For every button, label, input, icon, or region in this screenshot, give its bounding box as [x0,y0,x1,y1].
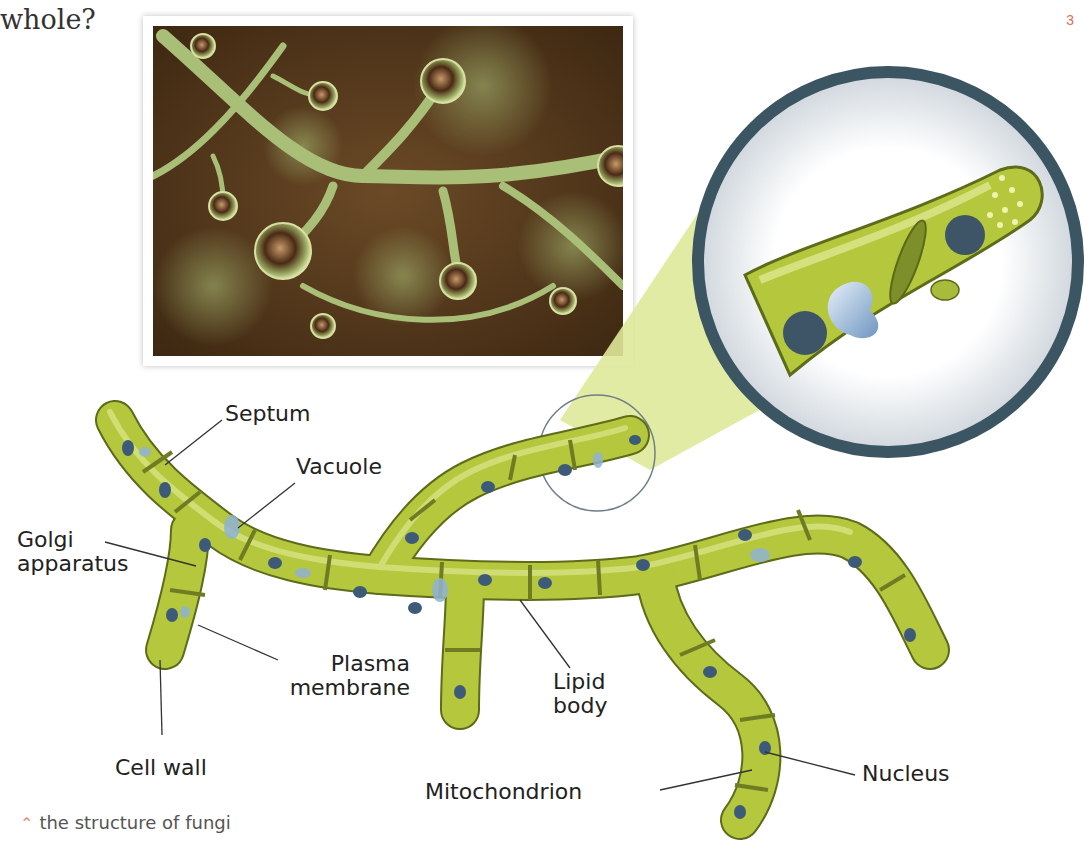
label-mitochondrion: Mitochondrion [425,780,582,804]
septa [143,440,905,790]
label-septum: Septum [225,402,310,426]
label-nucleus: Nucleus [862,762,950,786]
label-lipid-line2: body [553,694,607,718]
figure-caption: ⌃the structure of fungi [20,812,231,833]
hyphae-diagram [0,0,1084,851]
nuclei [122,435,916,819]
hyphae [110,412,930,820]
label-plasma-line2: membrane [275,676,410,700]
label-plasma-line1: Plasma [275,652,410,676]
label-cell-wall: Cell wall [115,756,207,780]
double-chevron-up-icon: ⌃ [20,814,33,833]
magnifier-closeup [698,72,1078,452]
label-golgi-line2: apparatus [17,552,128,576]
label-golgi-apparatus: Golgi apparatus [17,528,128,576]
label-lipid-body: Lipid body [553,670,607,718]
label-plasma-membrane: Plasma membrane [275,652,410,700]
label-golgi-line1: Golgi [17,528,128,552]
label-lipid-line1: Lipid [553,670,607,694]
label-vacuole: Vacuole [296,455,382,479]
caption-text: the structure of fungi [39,812,230,833]
